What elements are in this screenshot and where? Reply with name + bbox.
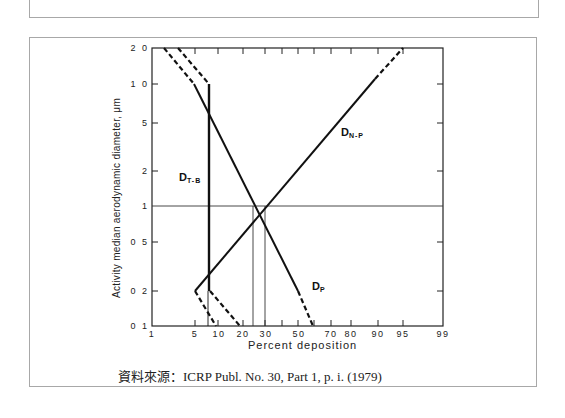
curve-d-p: [164, 48, 313, 326]
label-d-tb: DT-B: [179, 171, 201, 184]
curve-d-tb: [178, 48, 240, 326]
x-tick-50: 50: [292, 329, 305, 339]
label-d-np: DN-P: [341, 126, 364, 139]
y-tick-5: 5: [142, 118, 149, 128]
label-d-p: DP: [312, 280, 325, 293]
x-tick-95: 95: [396, 329, 409, 339]
y-tick-1: 1: [142, 201, 149, 211]
x-tick-5: 5: [192, 329, 199, 339]
y-axis: 2 0 1 0 5 2 1 0 5 0 2 0 1: [130, 43, 443, 331]
curve-d-np: [195, 48, 403, 326]
y-tick-10: 1 0: [130, 79, 149, 89]
deposition-chart: 2 0 1 0 5 2 1 0 5 0 2 0 1 1 5 10 20 30 5…: [0, 0, 565, 418]
source-caption: 資料來源：ICRP Publ. No. 30, Part 1, p. i. (1…: [118, 366, 382, 385]
x-axis-title: Percent deposition: [248, 339, 357, 351]
y-axis-title: Activity median aerodynamic diameter, μm: [111, 78, 122, 298]
x-tick-90: 90: [371, 329, 384, 339]
reference-lines: [152, 206, 443, 326]
x-tick-30: 30: [259, 329, 272, 339]
y-tick-2: 2: [142, 166, 149, 176]
x-tick-1: 1: [149, 329, 156, 339]
x-tick-99: 99: [436, 329, 449, 339]
x-tick-70: 70: [324, 329, 337, 339]
y-tick-20: 2 0: [130, 43, 149, 53]
y-tick-0.1: 0 1: [130, 321, 149, 331]
y-tick-0.2: 0 2: [130, 286, 149, 296]
x-tick-80: 80: [344, 329, 357, 339]
x-tick-10: 10: [212, 329, 225, 339]
y-tick-0.5: 0 5: [130, 237, 149, 247]
x-tick-20: 20: [236, 329, 249, 339]
plot-area: [152, 48, 443, 326]
